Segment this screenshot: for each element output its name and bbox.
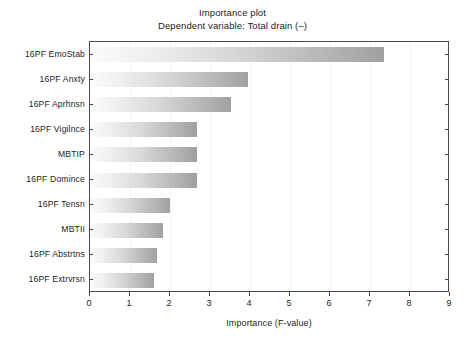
x-axis-tick-mark [169, 292, 170, 296]
bar [90, 273, 154, 288]
x-axis-tick-mark [209, 292, 210, 296]
y-axis-tick-label: MBTIP [0, 141, 85, 166]
x-axis-tick-mark [369, 292, 370, 296]
x-axis-tick-mark [129, 292, 130, 296]
x-axis-tick-mark [249, 292, 250, 296]
y-axis-tick-mark [445, 79, 449, 80]
x-axis-tick-label: 2 [157, 298, 181, 308]
bar-row [90, 168, 448, 193]
y-axis-tick-mark [89, 154, 93, 155]
y-axis-tick-label: 16PF Anxty [0, 66, 85, 91]
y-axis-tick-mark [89, 254, 93, 255]
bar [90, 198, 170, 213]
x-axis-tick-label: 8 [397, 298, 421, 308]
y-axis-tick-mark [445, 104, 449, 105]
x-axis-tick-label: 6 [317, 298, 341, 308]
bar-row [90, 268, 448, 292]
bar-row [90, 117, 448, 142]
chart-title: Importance plot [0, 6, 465, 19]
y-axis-tick-mark [445, 129, 449, 130]
x-axis-tick-label: 1 [117, 298, 141, 308]
y-axis-tick-mark [89, 54, 93, 55]
y-axis-tick-label: 16PF Abstrtns [0, 242, 85, 267]
y-axis-tick-label: 16PF Domince [0, 167, 85, 192]
x-axis-tick-label: 9 [437, 298, 461, 308]
y-axis-tick-mark [445, 179, 449, 180]
y-axis-labels: 16PF EmoStab16PF Anxty16PF Aprhnsn16PF V… [0, 41, 85, 292]
y-axis-tick-label: MBTII [0, 217, 85, 242]
y-axis-tick-label: 16PF Aprhnsn [0, 91, 85, 116]
x-axis-title: Importance (F-value) [89, 318, 449, 328]
x-axis-tick-label: 7 [357, 298, 381, 308]
y-axis-tick-mark [89, 79, 93, 80]
y-axis-tick-mark [89, 129, 93, 130]
bar [90, 122, 197, 137]
bars-layer [90, 42, 448, 291]
y-axis-tick-label: 16PF Extrvrsn [0, 267, 85, 292]
importance-plot-figure: Importance plot Dependent variable: Tota… [0, 0, 465, 343]
x-axis-tick-mark [89, 292, 90, 296]
x-axis-tick-mark [449, 292, 450, 296]
bar-row [90, 67, 448, 92]
y-axis-tick-mark [89, 204, 93, 205]
y-axis-tick-mark [89, 179, 93, 180]
y-axis-tick-label: 16PF Vigilnce [0, 116, 85, 141]
bar [90, 248, 157, 263]
y-axis-tick-mark [445, 254, 449, 255]
y-axis-tick-mark [89, 104, 93, 105]
x-axis-tick-mark [289, 292, 290, 296]
bar [90, 97, 231, 112]
bar [90, 173, 197, 188]
bar-row [90, 218, 448, 243]
y-axis-tick-mark [445, 54, 449, 55]
bar [90, 223, 163, 238]
bar [90, 147, 197, 162]
plot-area [89, 41, 449, 292]
x-axis-tick-label: 3 [197, 298, 221, 308]
x-axis-tick-label: 0 [77, 298, 101, 308]
bar-row [90, 42, 448, 67]
y-axis-tick-mark [445, 154, 449, 155]
bar-row [90, 142, 448, 167]
bar [90, 72, 248, 87]
bar-row [90, 193, 448, 218]
bar [90, 47, 384, 62]
x-axis-tick-mark [329, 292, 330, 296]
x-axis-tick-label: 4 [237, 298, 261, 308]
y-axis-tick-label: 16PF EmoStab [0, 41, 85, 66]
x-axis-tick-mark [409, 292, 410, 296]
y-axis-tick-mark [89, 229, 93, 230]
x-axis-tick-label: 5 [277, 298, 301, 308]
y-axis-tick-label: 16PF Tensn [0, 192, 85, 217]
bar-row [90, 243, 448, 268]
y-axis-tick-mark [445, 229, 449, 230]
y-axis-tick-mark [445, 279, 449, 280]
y-axis-tick-mark [445, 204, 449, 205]
y-axis-tick-mark [89, 279, 93, 280]
chart-title-block: Importance plot Dependent variable: Tota… [0, 6, 465, 32]
bar-row [90, 92, 448, 117]
chart-subtitle: Dependent variable: Total drain (–) [0, 19, 465, 32]
